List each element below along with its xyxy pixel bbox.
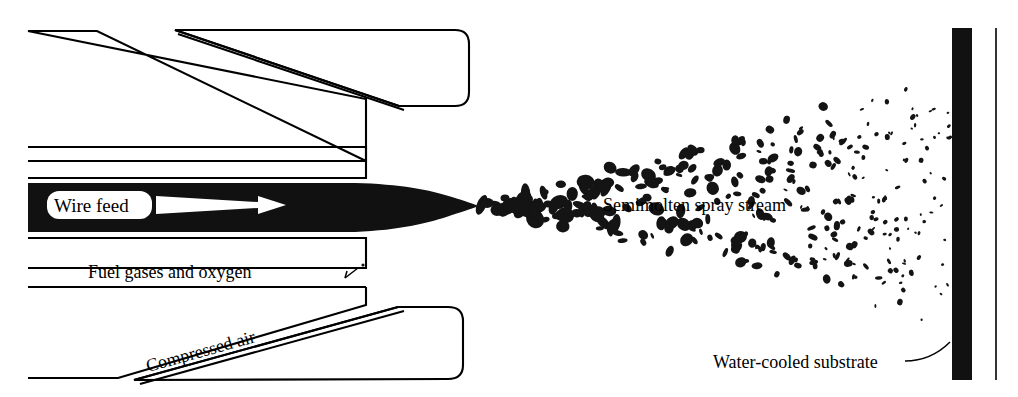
spray-particle <box>785 168 795 174</box>
spray-particle <box>755 138 765 149</box>
spray-particle <box>793 134 799 143</box>
spray-particle <box>828 150 832 155</box>
spray-particle <box>896 236 900 241</box>
spray-particle <box>922 220 926 224</box>
spray-particle <box>824 119 834 128</box>
spray-particle <box>932 196 937 201</box>
spray-particle <box>862 262 870 270</box>
spray-particle <box>888 247 891 250</box>
spray-droplet <box>544 200 553 207</box>
spray-particle <box>856 226 861 232</box>
spray-particle <box>892 267 899 274</box>
spray-particle <box>824 246 828 250</box>
spray-particle <box>832 197 840 205</box>
spray-droplet <box>491 204 504 216</box>
water-cooled-substrate-plate <box>905 28 996 380</box>
spray-particle <box>902 262 907 265</box>
spray-particle <box>769 249 777 254</box>
spray-particle <box>758 187 766 195</box>
spray-particle <box>943 238 946 241</box>
spray-particle <box>863 236 868 240</box>
spray-particle <box>851 165 856 170</box>
spray-particle <box>946 124 951 129</box>
spray-particle <box>675 172 682 177</box>
spray-droplet <box>523 195 533 203</box>
spray-particle <box>908 269 914 276</box>
nozzle-gas-channel-upper <box>28 147 366 178</box>
spray-droplet <box>501 195 510 202</box>
spray-particle <box>938 132 941 134</box>
spray-particle <box>946 283 950 288</box>
spray-particle <box>739 259 749 263</box>
spray-particle <box>901 274 905 278</box>
spray-particle <box>859 108 864 112</box>
spray-particle <box>894 227 900 232</box>
spray-particle <box>566 186 578 201</box>
spray-particle <box>787 160 795 166</box>
spray-particle <box>922 178 928 184</box>
spray-particle <box>823 258 827 261</box>
diagram-canvas: Wire feed Fuel gases and oxygen Compress… <box>0 0 1018 397</box>
spray-particle <box>770 142 776 147</box>
spray-particle <box>837 280 846 289</box>
spray-particle <box>754 174 767 185</box>
spray-particle <box>941 263 945 266</box>
substrate-bar <box>952 28 972 380</box>
spray-particle <box>807 232 818 241</box>
spray-particle <box>924 145 930 151</box>
spray-particle <box>614 183 626 194</box>
spray-particle <box>874 131 880 137</box>
spray-particle <box>934 285 937 288</box>
spray-particle <box>911 107 914 111</box>
spray-droplet <box>552 213 560 219</box>
spray-particle <box>871 98 874 102</box>
spray-particle <box>919 213 922 216</box>
spray-particle <box>909 113 917 121</box>
spray-particle <box>914 123 917 127</box>
spray-particle <box>783 188 788 192</box>
spray-particle <box>846 144 853 151</box>
spray-particle <box>946 111 949 114</box>
spray-particle <box>822 273 832 284</box>
spray-particle <box>939 204 943 208</box>
spray-particle <box>555 180 566 188</box>
spray-particle <box>910 127 913 130</box>
spray-particle <box>851 173 858 180</box>
spray-stream-label: Semimolten spray stream <box>603 195 786 215</box>
fuel-gases-label: Fuel gases and oxygen <box>88 262 251 282</box>
spray-particle <box>706 234 713 242</box>
spray-droplet <box>529 208 540 216</box>
spray-particle <box>793 146 803 157</box>
spray-particle <box>854 150 860 154</box>
spray-particle <box>885 99 890 105</box>
spray-particle <box>914 231 917 234</box>
spray-particle <box>886 258 892 265</box>
spray-particle <box>862 144 870 151</box>
spray-particle <box>815 132 826 143</box>
spray-particle <box>756 150 762 154</box>
spray-particle <box>903 259 906 263</box>
spray-particle <box>881 280 887 285</box>
spray-particle <box>932 135 936 139</box>
spray-particle <box>907 227 910 230</box>
spray-particle <box>689 174 700 186</box>
spray-particle <box>660 186 670 195</box>
spray-particle <box>921 318 923 321</box>
spray-particle <box>887 267 894 274</box>
spray-particle <box>721 247 729 258</box>
spray-particle <box>869 215 874 221</box>
spray-particle <box>782 115 790 125</box>
spray-particle <box>839 218 846 225</box>
spray-particle <box>902 141 907 145</box>
nozzle-upper-channel-slant-2 <box>178 34 404 110</box>
spray-particle <box>870 209 876 215</box>
spray-droplet <box>508 201 524 214</box>
spray-particle <box>807 224 817 231</box>
spray-particle <box>866 121 869 126</box>
spray-particle <box>861 155 865 160</box>
spray-particle <box>894 185 901 190</box>
spray-particle <box>764 124 775 135</box>
spray-particle <box>824 225 830 232</box>
spray-particle <box>903 86 908 92</box>
spray-particle <box>617 238 627 244</box>
